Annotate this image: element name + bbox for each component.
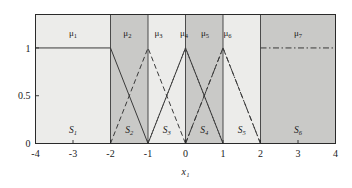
x-tick-label-0: -4 [31, 148, 39, 159]
x-tick-label-4: 0 [183, 148, 188, 159]
membership-function-chart: -4-3-2-101234 00.51 μ1μ2μ3μ4μ5μ6μ7 S1S2S… [0, 0, 352, 188]
fuzzy-membership-figure: -4-3-2-101234 00.51 μ1μ2μ3μ4μ5μ6μ7 S1S2S… [0, 0, 352, 188]
x-tick-label-6: 2 [258, 148, 263, 159]
x-axis-title-group: x₁ [181, 166, 190, 177]
x-tick-label-1: -3 [69, 148, 77, 159]
y-tick-label-1: 0.5 [18, 90, 31, 101]
x-tick-label-3: -1 [144, 148, 152, 159]
x-tick-label-8: 4 [333, 148, 338, 159]
x-tick-label-7: 3 [296, 148, 301, 159]
x-tick-label-5: 1 [221, 148, 226, 159]
y-tick-label-0: 0 [26, 138, 31, 149]
x-tick-label-2: -2 [106, 148, 114, 159]
x-axis-title: x₁ [181, 166, 190, 177]
y-tick-label-2: 1 [26, 43, 31, 54]
